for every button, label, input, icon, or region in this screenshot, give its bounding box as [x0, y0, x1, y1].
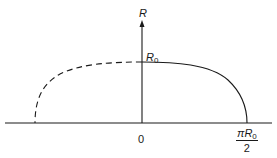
r-subscript: 0: [252, 132, 256, 141]
y-axis-arrow-icon: [140, 20, 145, 27]
fraction-numerator: πR0: [236, 128, 258, 141]
dashed-curve: [35, 62, 142, 123]
y-axis-label: R: [139, 8, 147, 19]
fraction-denominator: 2: [244, 141, 250, 154]
r0-label-subscript: 0: [154, 56, 158, 65]
origin-label: 0: [138, 134, 144, 145]
r0-label: R0: [146, 52, 158, 63]
solid-curve: [142, 62, 247, 123]
x-tick-label-pi-r0-over-2: πR0 2: [236, 128, 258, 154]
r0-label-base: R: [146, 51, 154, 63]
